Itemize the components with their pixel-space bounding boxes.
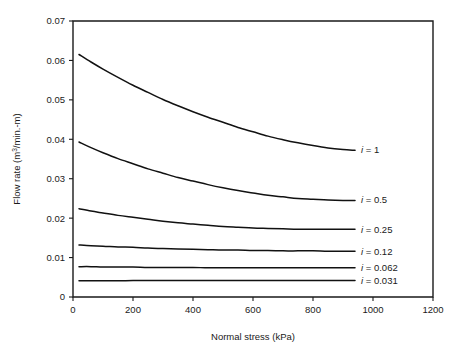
x-tick-label: 600	[245, 304, 261, 315]
x-tick-label: 800	[305, 304, 321, 315]
data-curve	[79, 209, 355, 230]
x-tick-label: 1200	[422, 304, 443, 315]
series-label: i = 0.031	[361, 275, 398, 286]
x-axis-tick-labels: 020040060080010001200	[70, 304, 443, 315]
y-tick-label: 0.03	[47, 173, 66, 184]
data-curve	[79, 267, 355, 268]
y-tick-label: 0.02	[47, 213, 66, 224]
y-axis-tick-labels: 00.010.020.030.040.050.060.07	[47, 15, 66, 302]
x-tick-label: 200	[125, 304, 141, 315]
chart-screenshot: 00.010.020.030.040.050.060.07 0200400600…	[0, 0, 459, 352]
series-label: i = 1	[361, 144, 379, 155]
x-tick-label: 400	[185, 304, 201, 315]
y-tick-label: 0.01	[47, 252, 66, 263]
y-tick-label: 0	[60, 291, 65, 302]
series-label: i = 0.062	[361, 262, 398, 273]
x-tick-label: 0	[70, 304, 75, 315]
series-label: i = 0.5	[361, 194, 387, 205]
y-tick-label: 0.05	[47, 94, 66, 105]
data-curves	[79, 55, 355, 281]
y-tick-label: 0.06	[47, 55, 66, 66]
data-curve	[79, 55, 355, 151]
series-label: i = 0.25	[361, 224, 392, 235]
y-tick-label: 0.07	[47, 15, 66, 26]
y-axis-title: Flow rate (m3/min.-m)	[11, 113, 22, 204]
x-axis-title: Normal stress (kPa)	[211, 331, 295, 342]
data-curve	[79, 142, 355, 200]
data-curve	[79, 245, 355, 251]
y-tick-label: 0.04	[47, 134, 66, 145]
series-label: i = 0.12	[361, 246, 392, 257]
series-labels: i = 1i = 0.5i = 0.25i = 0.12i = 0.062i =…	[361, 144, 398, 286]
flow-rate-vs-normal-stress-chart: 00.010.020.030.040.050.060.07 0200400600…	[0, 0, 459, 352]
x-tick-label: 1000	[362, 304, 383, 315]
